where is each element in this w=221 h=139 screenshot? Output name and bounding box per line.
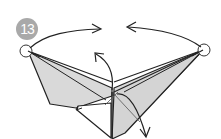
left-curved-arrow-icon xyxy=(30,29,100,48)
left-arrowhead-icon xyxy=(92,24,101,33)
left-pivot-circle-icon xyxy=(20,45,32,57)
right-curved-arrow-icon xyxy=(128,27,201,47)
origami-fold-diagram xyxy=(0,0,221,139)
lower-flap xyxy=(77,103,111,138)
body-right-panel xyxy=(112,50,203,139)
left-wing xyxy=(28,51,112,108)
